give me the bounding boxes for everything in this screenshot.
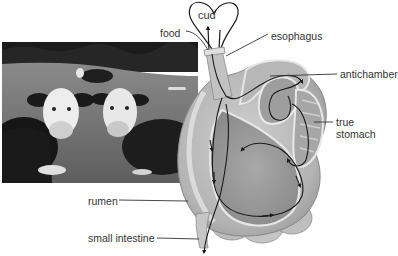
esophagus-leader-line bbox=[226, 34, 268, 56]
rumen-leader-line bbox=[119, 200, 188, 201]
small-intestine-leader-line bbox=[157, 238, 199, 239]
stomach-organ bbox=[178, 47, 326, 248]
label-true-stomach: true stomach bbox=[336, 116, 376, 140]
label-cud: cud bbox=[198, 9, 216, 21]
label-food: food bbox=[160, 27, 180, 39]
label-antichamber: antichamber bbox=[340, 68, 398, 80]
food-leader-line bbox=[186, 31, 208, 50]
label-esophagus: esophagus bbox=[271, 30, 322, 42]
label-rumen: rumen bbox=[88, 195, 118, 207]
label-small-intestine: small intestine bbox=[88, 232, 155, 244]
label-true-stomach-line2: stomach bbox=[336, 128, 376, 140]
label-true-stomach-line1: true bbox=[336, 116, 376, 128]
